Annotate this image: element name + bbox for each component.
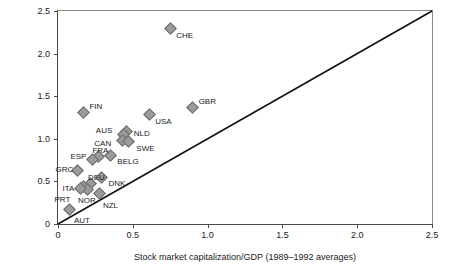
data-point-label-dnk: DNK	[108, 180, 125, 188]
y-tick-label: 1.0	[37, 134, 50, 144]
x-tick	[432, 224, 433, 228]
x-tick-label: 1.0	[201, 230, 214, 240]
y-tick	[54, 139, 58, 140]
y-tick-label: 0	[45, 219, 50, 229]
y-tick	[54, 96, 58, 97]
x-tick-label: 2.0	[351, 230, 364, 240]
y-tick-label: 2.5	[37, 6, 50, 16]
x-tick	[133, 224, 134, 228]
x-tick-label: 2.5	[426, 230, 439, 240]
x-tick-label: 0.5	[127, 230, 140, 240]
reference-line-layer	[58, 11, 432, 224]
x-axis-title: Stock market capitalization/GDP (1989–19…	[57, 252, 433, 262]
y-tick-label: 2.0	[37, 49, 50, 59]
data-point-label-gbr: GBR	[199, 98, 216, 106]
data-point-label-nld: NLD	[134, 130, 150, 138]
x-tick-label: 1.5	[276, 230, 289, 240]
scatter-chart-figure: 00.51.01.52.02.500.51.01.52.02.5CHEGBRUS…	[0, 0, 452, 279]
data-point-label-nzl: NZL	[103, 202, 118, 210]
data-point-label-usa: USA	[155, 118, 171, 126]
x-tick-label: 0	[55, 230, 60, 240]
plot-area: 00.51.01.52.02.500.51.01.52.02.5CHEGBRUS…	[57, 10, 433, 225]
data-point-label-ita: ITA	[62, 185, 74, 193]
y-tick	[54, 224, 58, 225]
x-tick	[58, 224, 59, 228]
data-point-label-swe: SWE	[136, 145, 154, 153]
y-tick-label: 1.5	[37, 91, 50, 101]
y-tick-label: 0.5	[37, 176, 50, 186]
data-point-label-esp: ESP	[70, 153, 86, 161]
data-point-label-belg: BELG	[117, 158, 138, 166]
y-tick	[54, 54, 58, 55]
data-point-label-che: CHE	[176, 32, 193, 40]
x-tick	[208, 224, 209, 228]
y-tick	[54, 181, 58, 182]
data-point-label-aut: AUT	[74, 217, 90, 225]
data-point-label-deu: DEU	[88, 174, 105, 182]
data-point-label-nor: NOR	[78, 197, 96, 205]
x-tick	[357, 224, 358, 228]
x-tick	[282, 224, 283, 228]
data-point-label-fin: FIN	[89, 103, 102, 111]
diagonal-reference-line	[58, 11, 432, 224]
data-point-label-aus: AUS	[96, 127, 112, 135]
y-tick	[54, 11, 58, 12]
data-point-label-fra: FRA	[92, 147, 108, 155]
data-point-label-grc: GRC	[55, 166, 73, 174]
